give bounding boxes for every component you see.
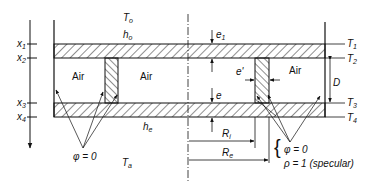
e1-label: e1 — [216, 29, 226, 41]
x4-label: x4 — [16, 111, 26, 123]
T3-label: T3 — [347, 97, 357, 109]
air-label-left: Air — [72, 71, 85, 82]
D-label: D — [333, 77, 340, 88]
right-condition-rho: ρ = 1 (specular) — [283, 158, 354, 169]
air-label-center: Air — [140, 71, 153, 82]
right-condition-phi: φ = 0 — [284, 144, 308, 155]
Re-label: Re — [222, 147, 233, 159]
ambient-top-label: To — [123, 12, 133, 24]
air-label-right: Air — [289, 65, 302, 76]
brace: { — [274, 136, 281, 158]
T4-label: T4 — [347, 112, 357, 124]
ambient-bottom-label: Ta — [122, 157, 132, 169]
x3-label: x3 — [16, 97, 26, 109]
x-ticks — [27, 44, 37, 117]
left-condition-label: φ = 0 — [73, 151, 97, 162]
coef-bottom-label: he — [143, 121, 153, 133]
e-prime-label: e' — [236, 66, 245, 77]
e-label: e — [216, 90, 222, 101]
heat-transfer-diagram: x1 x2 x3 x4 To ho he Ta Air Air Air φ = … — [0, 0, 375, 181]
x2-label: x2 — [16, 52, 26, 64]
x1-label: x1 — [16, 38, 26, 50]
top-slab — [54, 44, 325, 58]
coef-top-label: ho — [123, 29, 133, 41]
Ri-label: Ri — [222, 128, 231, 140]
T1-label: T1 — [347, 38, 357, 50]
T2-label: T2 — [347, 53, 357, 65]
